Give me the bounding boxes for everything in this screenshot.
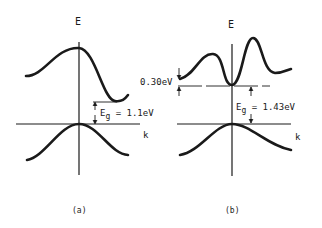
- arrowhead-up-icon: [93, 102, 97, 106]
- conduction-band: [180, 38, 291, 85]
- valence-band: [180, 124, 291, 155]
- band-gap-label: Eg = 1.1eV: [100, 108, 154, 121]
- energy-axis-label: E: [75, 16, 81, 27]
- panel-caption: (a): [72, 206, 86, 215]
- arrowhead-up-icon: [249, 87, 253, 91]
- arrowhead-up-icon: [177, 87, 181, 91]
- conduction-band: [26, 48, 128, 101]
- arrowhead-down-icon: [249, 119, 253, 123]
- band-gap-label: Eg = 1.43eV: [236, 102, 296, 115]
- gap-value: = 1.1eV: [110, 108, 154, 118]
- k-axis-label: k: [143, 130, 149, 140]
- panel-a: E k Eg = 1.1eV (a): [16, 16, 154, 215]
- panel-b: E k 0.30eV Eg = 1.43eV (b): [140, 19, 301, 215]
- energy-axis-label: E: [228, 19, 234, 30]
- side-valley-offset-label: 0.30eV: [140, 77, 173, 87]
- valence-band: [27, 124, 128, 160]
- band-structure-diagram: E k Eg = 1.1eV (a) E k 0.30eV: [0, 0, 322, 228]
- k-axis-label: k: [295, 132, 301, 142]
- panel-caption: (b): [225, 206, 239, 215]
- gap-value: = 1.43eV: [246, 102, 295, 112]
